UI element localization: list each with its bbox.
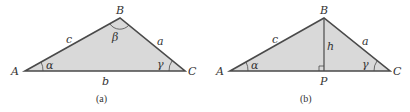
- vertex-b-label: B: [319, 4, 328, 17]
- side-c-label: c: [272, 33, 278, 46]
- side-a-label: a: [362, 35, 369, 48]
- vertex-c-label: C: [393, 65, 402, 78]
- angle-alpha-label: α: [251, 59, 259, 72]
- angle-alpha-label: α: [46, 59, 54, 72]
- figure-a: A B C c a b α β γ (a): [10, 4, 197, 105]
- altitude-h-label: h: [327, 40, 334, 53]
- figure-b: A B C P c a h α γ (b): [215, 4, 402, 105]
- angle-beta-label: β: [111, 31, 118, 44]
- side-a-label: a: [157, 35, 164, 48]
- angle-gamma-label: γ: [157, 58, 164, 71]
- vertex-c-label: C: [188, 65, 197, 78]
- side-b-label: b: [102, 75, 109, 88]
- triangle-diagrams: A B C c a b α β γ (a) A B C P c a h α γ …: [0, 0, 410, 112]
- vertex-b-label: B: [115, 4, 124, 17]
- angle-gamma-label: γ: [362, 58, 369, 71]
- caption-b: (b): [300, 93, 312, 105]
- foot-p-label: P: [319, 75, 328, 88]
- caption-a: (a): [96, 93, 107, 105]
- side-c-label: c: [66, 33, 72, 46]
- vertex-a-label: A: [10, 65, 19, 78]
- vertex-a-label: A: [215, 65, 224, 78]
